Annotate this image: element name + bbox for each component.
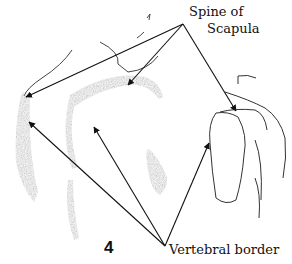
anatomy-illustration (0, 0, 292, 264)
label-vertebral-border: Vertebral border (169, 242, 279, 257)
vertebral-border-arrows (29, 122, 209, 246)
figure-number: 4 (104, 238, 113, 258)
spine-of-scapula-arrows (26, 24, 236, 111)
label-spine-of-scapula-line1: Spine of (189, 4, 243, 19)
scapula-outline (210, 75, 286, 218)
back-shading (16, 75, 168, 240)
label-spine-of-scapula-line2: Scapula (207, 21, 260, 36)
